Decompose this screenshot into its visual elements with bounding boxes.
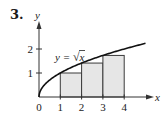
chart-canvas: 01234 12 y x y = √ x (0, 0, 166, 124)
riemann-rectangle-3 (103, 55, 124, 97)
riemann-sum-figure: 3. 01234 12 y x y = √ x (0, 0, 166, 124)
y-tick-label: 1 (28, 67, 34, 79)
function-label-radicand: x (79, 51, 85, 63)
y-axis-arrow-icon (37, 21, 42, 29)
function-label-lhs: y = (54, 51, 70, 63)
x-tick-label: 2 (79, 101, 85, 113)
x-tick-label: 3 (100, 101, 106, 113)
y-axis-label: y (34, 9, 40, 21)
riemann-rectangle-2 (82, 63, 103, 97)
y-tick-label: 2 (28, 43, 34, 55)
x-axis-label: x (154, 91, 160, 103)
x-tick-label: 4 (121, 101, 127, 113)
x-tick-label: 0 (36, 101, 42, 113)
riemann-rectangle-1 (60, 73, 81, 97)
y-ticks: 12 (28, 43, 43, 79)
x-tick-label: 1 (58, 101, 64, 113)
x-axis-arrow-icon (146, 95, 154, 100)
function-label: y = √ x (54, 50, 85, 64)
